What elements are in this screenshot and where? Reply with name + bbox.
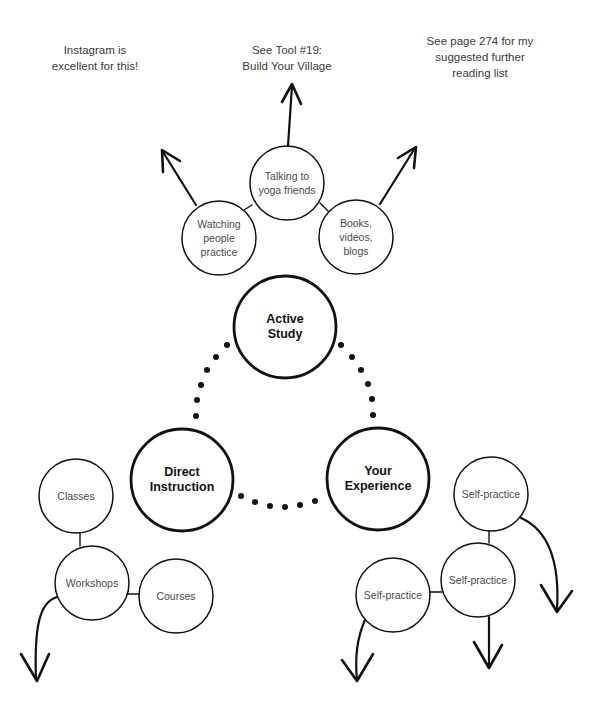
note-line: Build Your Village bbox=[222, 58, 352, 74]
note-line: See page 274 for my bbox=[410, 33, 550, 49]
note-line: excellent for this! bbox=[30, 58, 160, 74]
note-instagram: Instagram is excellent for this! bbox=[30, 42, 160, 74]
workshops-node: Workshops bbox=[55, 546, 129, 620]
main-label-line: Instruction bbox=[150, 480, 215, 495]
watching-node: Watching people practice bbox=[182, 201, 256, 275]
note-line: See Tool #19: bbox=[222, 42, 352, 58]
node-label-line: Books, bbox=[340, 216, 372, 230]
node-label-line: Watching bbox=[197, 217, 240, 231]
note-line: suggested further bbox=[410, 49, 550, 65]
main-label-line: Your bbox=[364, 464, 392, 479]
talking-node: Talking to yoga friends bbox=[250, 146, 324, 220]
main-label-line: Experience bbox=[345, 479, 412, 494]
self-practice-left-node: Self-practice bbox=[356, 558, 430, 632]
classes-node: Classes bbox=[39, 459, 113, 533]
courses-node: Courses bbox=[139, 559, 213, 633]
node-label-line: people bbox=[203, 231, 235, 245]
arrow-down-right-icon bbox=[521, 518, 572, 612]
node-label-line: yoga friends bbox=[258, 183, 315, 197]
self-practice-top-node: Self-practice bbox=[454, 457, 528, 531]
self-practice-middle-node: Self-practice bbox=[441, 543, 515, 617]
main-label-line: Active bbox=[266, 312, 304, 327]
main-label-line: Study bbox=[268, 327, 303, 342]
direct-instruction-node: Direct Instruction bbox=[131, 429, 233, 531]
note-line: reading list bbox=[410, 65, 550, 81]
note-reading: See page 274 for my suggested further re… bbox=[410, 33, 550, 81]
arrow-down-left-icon bbox=[21, 597, 57, 681]
arrow-up-left-icon bbox=[162, 150, 196, 205]
node-label-line: practice bbox=[201, 245, 238, 259]
note-line: Instagram is bbox=[30, 42, 160, 58]
node-label-line: blogs bbox=[343, 244, 368, 258]
books-node: Books, videos, blogs bbox=[319, 200, 393, 274]
arrow-up-icon bbox=[282, 84, 301, 146]
your-experience-node: Your Experience bbox=[327, 428, 429, 530]
main-label-line: Direct bbox=[164, 465, 199, 480]
active-study-node: Active Study bbox=[234, 276, 336, 378]
node-label-line: Talking to bbox=[265, 169, 309, 183]
arrow-up-right-icon bbox=[380, 147, 416, 204]
note-tool: See Tool #19: Build Your Village bbox=[222, 42, 352, 74]
node-label-line: videos, bbox=[339, 230, 372, 244]
arrow-down-middle-icon bbox=[474, 617, 502, 668]
